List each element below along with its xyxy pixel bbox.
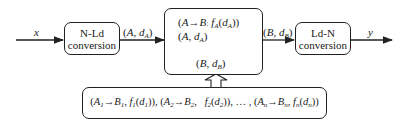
input-label: x [34, 26, 39, 38]
n-ld-conversion-box: N-Ld conversion [64, 22, 120, 55]
input-line: (A, dA) [178, 30, 207, 46]
n-ld-title: N-Ld [80, 27, 104, 39]
edge-label-a-da: (A, dA) [123, 26, 152, 42]
output-label: y [368, 26, 373, 38]
output-line: (B, dB) [196, 57, 225, 73]
rule-base-box: (A1→B1, f1(d1)), (A2→B2, f2(d2)), … , (A… [82, 87, 327, 119]
ld-n-title: Ld-N [311, 27, 335, 39]
edge-label-b-db: (B, dB) [263, 26, 292, 42]
ld-n-conversion-box: Ld-N conversion [295, 22, 351, 55]
hollow-up-arrow-icon [205, 74, 227, 87]
n-ld-subtitle: conversion [68, 39, 116, 51]
rule-base-text: (A1→B1, f1(d1)), (A2→B2, f2(d2)), … , (A… [90, 96, 318, 111]
ld-n-subtitle: conversion [299, 39, 347, 51]
